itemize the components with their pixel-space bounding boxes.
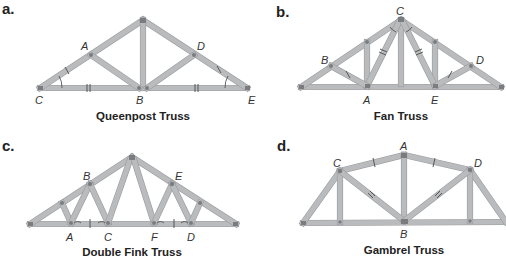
panel-letter-a: a. (2, 0, 15, 17)
vertex-c-C: C (104, 231, 112, 243)
vertex-a-D: D (197, 40, 205, 52)
title-fan-truss: Fan Truss (374, 110, 428, 122)
vertex-d-A: A (399, 140, 407, 152)
vertex-d-B: B (400, 228, 407, 240)
vertex-c-A: A (65, 231, 73, 243)
vertex-b-B: B (321, 54, 328, 66)
panel-letter-c: c. (2, 137, 15, 154)
vertex-c-F: F (151, 231, 159, 243)
panel-c-double-fink-truss: c. (2, 137, 238, 258)
panel-letter-b: b. (276, 3, 289, 20)
panel-letter-d: d. (277, 137, 290, 154)
title-queenpost-truss: Queenpost Truss (96, 110, 190, 122)
panel-d-gambrel-truss: d. C A D B Gamb (277, 137, 506, 256)
vertex-c-B: B (83, 170, 90, 182)
vertex-c-E: E (175, 170, 183, 182)
vertex-a-B: B (136, 94, 143, 106)
vertex-b-C: C (396, 5, 404, 17)
vertex-b-E: E (431, 94, 439, 106)
vertex-b-D: D (476, 54, 484, 66)
panel-b-fan-truss: b. B C (276, 3, 504, 122)
panel-a-queenpost-truss: a. A B C D (2, 0, 256, 122)
vertex-d-C: C (333, 157, 341, 169)
vertex-c-D: D (187, 231, 195, 243)
title-double-fink-truss: Double Fink Truss (82, 246, 182, 258)
title-gambrel-truss: Gambrel Truss (364, 244, 445, 256)
truss-diagrams: a. A B C D (0, 0, 506, 271)
vertex-d-D: D (474, 157, 482, 169)
vertex-b-A: A (362, 94, 370, 106)
vertex-a-A: A (80, 40, 88, 52)
vertex-a-C: C (35, 94, 43, 106)
vertex-a-E: E (248, 94, 256, 106)
